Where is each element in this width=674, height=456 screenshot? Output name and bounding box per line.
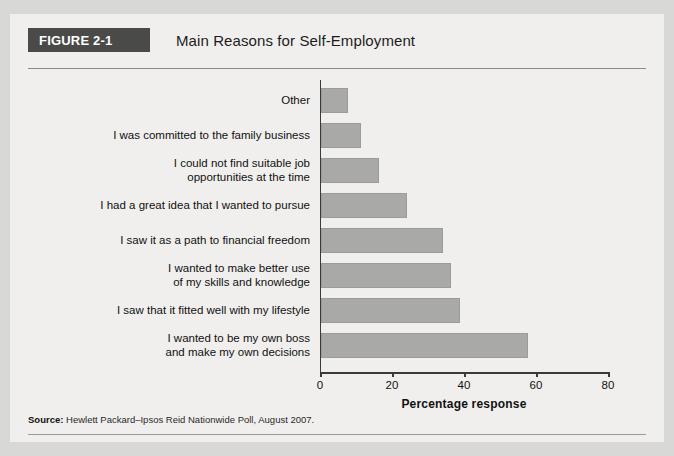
footer-divider [28, 434, 646, 435]
bar [321, 263, 451, 288]
category-label: I could not find suitable jobopportuniti… [26, 157, 310, 184]
bar [321, 88, 348, 113]
category-label: I wanted to make better useof my skills … [26, 262, 310, 289]
figure-panel: FIGURE 2-1 Main Reasons for Self-Employm… [10, 14, 664, 442]
x-axis-tick [392, 372, 394, 377]
header-divider [28, 68, 646, 69]
category-label: I saw that it fitted well with my lifest… [26, 304, 310, 318]
figure-header: FIGURE 2-1 Main Reasons for Self-Employm… [28, 28, 646, 54]
x-axis-tick [464, 372, 466, 377]
figure-title: Main Reasons for Self-Employment [176, 28, 415, 52]
bars-container [320, 80, 610, 372]
category-label: I wanted to be my own bossand make my ow… [26, 332, 310, 359]
category-axis-labels: OtherI was committed to the family busin… [28, 80, 318, 372]
category-label: Other [26, 94, 310, 108]
bar [321, 193, 407, 218]
category-label: I saw it as a path to financial freedom [26, 234, 310, 248]
x-axis-tick-label: 20 [386, 379, 399, 391]
bar [321, 228, 443, 253]
x-axis-tick-label: 0 [317, 379, 323, 391]
x-axis-tick-label: 80 [602, 379, 615, 391]
x-axis-tick-label: 40 [458, 379, 471, 391]
bar [321, 123, 361, 148]
bar [321, 158, 379, 183]
source-text: Hewlett Packard–Ipsos Reid Nationwide Po… [63, 414, 314, 425]
x-axis-tick [536, 372, 538, 377]
x-axis-title: Percentage response [320, 397, 608, 411]
category-label: I had a great idea that I wanted to purs… [26, 199, 310, 213]
x-axis-tick-label: 60 [530, 379, 543, 391]
figure-number-badge: FIGURE 2-1 [28, 28, 150, 52]
chart-plot-area: OtherI was committed to the family busin… [28, 80, 646, 380]
category-label: I was committed to the family business [26, 129, 310, 143]
x-axis-tick [320, 372, 322, 377]
source-label: Source: [28, 414, 63, 425]
bar [321, 333, 528, 358]
bar [321, 298, 460, 323]
x-axis-tick [608, 372, 610, 377]
source-note: Source: Hewlett Packard–Ipsos Reid Natio… [28, 414, 314, 425]
